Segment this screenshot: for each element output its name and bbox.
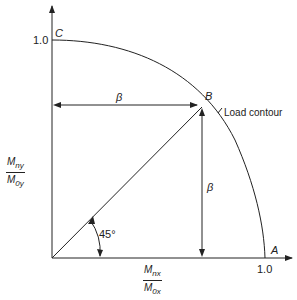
point-a-label: A — [271, 245, 278, 256]
diagonal-45-line — [52, 107, 202, 258]
contour-leader — [218, 108, 222, 113]
beta-vertical-label: β — [207, 182, 213, 193]
x-tick-1: 1.0 — [257, 264, 272, 275]
y-tick-1: 1.0 — [33, 35, 48, 46]
beta-horizontal-label: β — [116, 92, 122, 103]
y-axis-label: Mny M0y — [6, 156, 25, 189]
x-axis-label: Mnx M0x — [143, 264, 162, 297]
point-b-label: B — [205, 91, 212, 102]
angle-label: 45° — [99, 229, 116, 240]
point-c-label: C — [55, 28, 63, 39]
load-contour-label: Load contour — [224, 108, 282, 118]
